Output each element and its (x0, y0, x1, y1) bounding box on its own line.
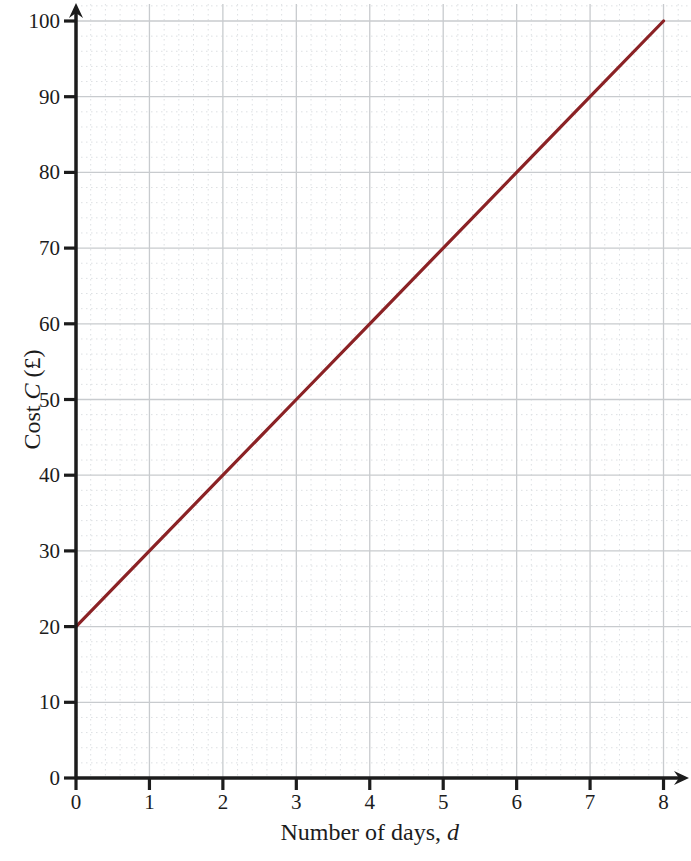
y-tick-label: 90 (39, 85, 60, 109)
y-tick-label: 70 (39, 236, 60, 260)
x-tick-label: 8 (658, 790, 669, 814)
minor-gridlines (76, 4, 691, 778)
y-axis-title: Cost C (£) (19, 349, 45, 449)
x-tick-label: 7 (585, 790, 596, 814)
major-gridlines (76, 4, 691, 778)
y-tick-label: 100 (29, 9, 61, 33)
x-tick-label: 3 (291, 790, 302, 814)
y-tick-label: 0 (50, 766, 61, 790)
y-tick-label: 30 (39, 539, 60, 563)
x-tick-label: 0 (71, 790, 82, 814)
line-chart-canvas: 0102030405060708090100012345678Number of… (0, 0, 691, 861)
x-axis-title: Number of days, d (280, 819, 460, 845)
x-tick-label: 5 (438, 790, 449, 814)
y-tick-label: 20 (39, 615, 60, 639)
axes (69, 3, 689, 785)
y-tick-label: 80 (39, 160, 60, 184)
y-tick-label: 10 (39, 690, 60, 714)
ticks-and-labels: 0102030405060708090100012345678 (29, 9, 669, 814)
x-tick-label: 1 (144, 790, 155, 814)
y-tick-label: 40 (39, 463, 60, 487)
chart-figure: 0102030405060708090100012345678Number of… (0, 0, 691, 861)
y-tick-label: 60 (39, 312, 60, 336)
x-tick-label: 6 (511, 790, 522, 814)
x-tick-label: 2 (218, 790, 229, 814)
x-tick-label: 4 (365, 790, 376, 814)
